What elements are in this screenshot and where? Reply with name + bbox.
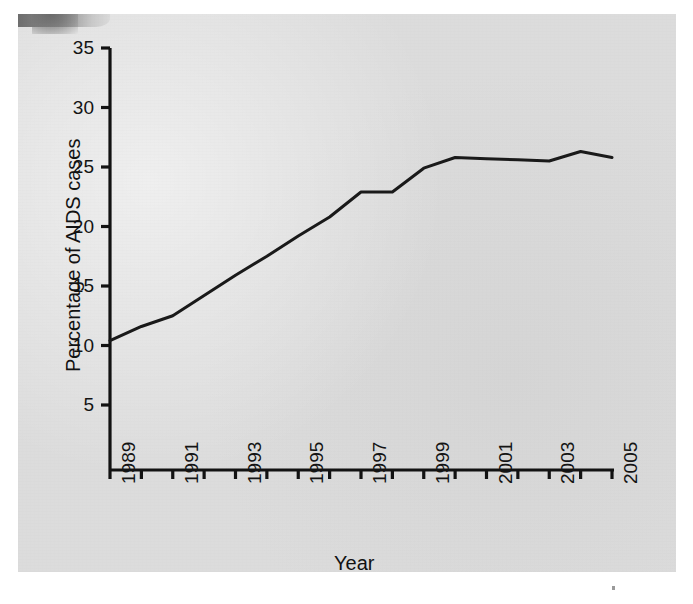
scan-speck bbox=[612, 586, 615, 590]
y-tick-label: 35 bbox=[54, 37, 94, 59]
x-tick-label: 2005 bbox=[620, 442, 642, 484]
x-tick-label: 1995 bbox=[306, 442, 328, 484]
figure-panel bbox=[18, 14, 676, 572]
x-tick-label: 2003 bbox=[557, 442, 579, 484]
y-tick-label: 30 bbox=[54, 97, 94, 119]
scanned-page: 5101520253035198919911993199519971999200… bbox=[0, 0, 693, 604]
x-tick-label: 1999 bbox=[432, 442, 454, 484]
y-axis-title: Percentage of AIDS cases bbox=[62, 139, 85, 372]
x-tick-label: 1997 bbox=[369, 442, 391, 484]
x-tick-label: 1989 bbox=[118, 442, 140, 484]
x-tick-label: 2001 bbox=[495, 442, 517, 484]
x-axis-title: Year bbox=[334, 552, 374, 575]
y-tick-label: 5 bbox=[54, 394, 94, 416]
x-tick-label: 1991 bbox=[181, 442, 203, 484]
x-tick-label: 1993 bbox=[244, 442, 266, 484]
scan-smudge-secondary bbox=[32, 14, 78, 34]
